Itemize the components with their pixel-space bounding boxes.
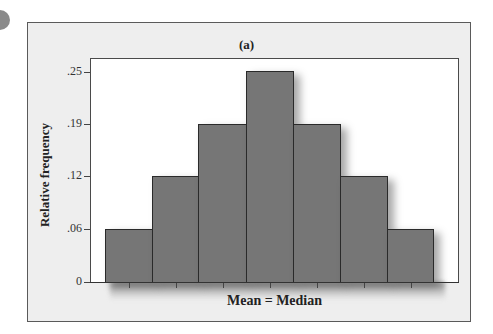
bar-5	[293, 124, 341, 283]
bar-3	[198, 124, 247, 283]
x-tick-mark	[270, 283, 271, 288]
x-axis-label: Mean = Median	[90, 293, 459, 309]
x-tick-mark	[223, 283, 224, 288]
bar-2	[152, 176, 199, 283]
x-tick-mark	[317, 283, 318, 288]
y-axis-label: Relative frequency	[37, 120, 53, 230]
y-tick-label: 0	[42, 274, 82, 289]
x-axis-line	[90, 282, 459, 283]
chart-title: (a)	[0, 37, 493, 53]
y-tick-mark	[84, 72, 90, 73]
x-tick-mark	[176, 283, 177, 288]
x-tick-mark	[129, 283, 130, 288]
y-tick-mark	[84, 282, 90, 283]
bullet-dot	[0, 10, 10, 30]
bar-7	[387, 229, 434, 283]
x-tick-mark	[411, 283, 412, 288]
y-tick-mark	[84, 176, 90, 177]
bar-4	[246, 71, 294, 283]
bar-1	[105, 229, 153, 283]
y-tick-mark	[84, 229, 90, 230]
y-tick-label: .25	[42, 64, 82, 79]
x-tick-mark	[364, 283, 365, 288]
bar-6	[340, 176, 388, 283]
y-tick-mark	[84, 124, 90, 125]
